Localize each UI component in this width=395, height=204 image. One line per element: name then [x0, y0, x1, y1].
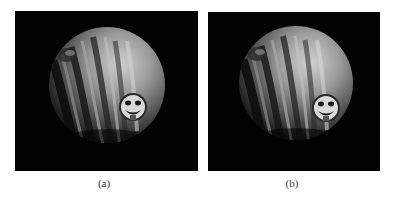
smiley-emblem-a: [120, 94, 146, 120]
subfigure-a-image: [15, 11, 198, 171]
sphere-render-a: [15, 11, 198, 171]
subfigure-b-caption: (b): [286, 177, 299, 189]
smiley-emblem-b: [313, 95, 339, 121]
sphere-render-b: [208, 12, 380, 171]
subfigure-b-image: [208, 12, 380, 171]
subfigure-a-caption: (a): [98, 177, 110, 189]
